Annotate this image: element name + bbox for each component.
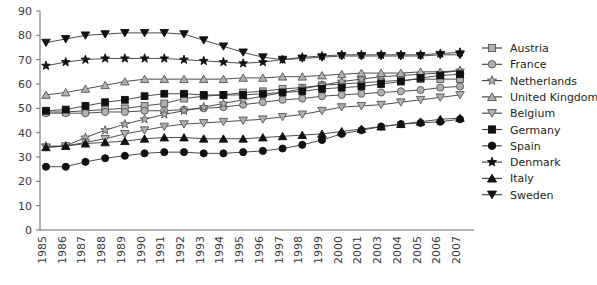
x-axis-tick-label: 1995 [233, 236, 246, 264]
data-point [240, 149, 247, 156]
data-point [199, 37, 208, 44]
x-axis-tick-label: 1999 [312, 236, 325, 264]
legend-marker [487, 157, 496, 166]
legend-item-sweden[interactable]: Sweden [482, 189, 553, 202]
data-point [279, 89, 286, 96]
data-point [160, 54, 169, 62]
data-point [456, 83, 463, 90]
y-axis-tick-label: 70 [18, 54, 32, 67]
data-point [437, 84, 444, 91]
data-point [219, 58, 228, 66]
data-point [397, 78, 404, 85]
data-point [457, 71, 464, 78]
legend-label: Austria [510, 42, 549, 55]
legend-item-austria[interactable]: Austria [482, 42, 549, 55]
data-point [417, 75, 424, 82]
data-point [141, 150, 148, 157]
data-point [240, 92, 247, 99]
data-point [437, 72, 444, 79]
x-axis-tick-label: 2005 [411, 236, 424, 264]
data-point [220, 92, 227, 99]
line-chart: 0102030405060708090198519861987198819891… [0, 0, 597, 285]
data-point [219, 43, 228, 50]
legend-marker [488, 142, 496, 150]
x-axis-tick-label: 1993 [194, 236, 207, 264]
data-point [141, 93, 148, 100]
data-point [180, 149, 187, 156]
data-point [239, 49, 248, 56]
data-point [141, 107, 148, 114]
legend-marker [488, 44, 495, 51]
data-point [61, 58, 70, 66]
data-point [279, 145, 286, 152]
data-point [220, 150, 227, 157]
x-axis-tick-label: 1991 [154, 236, 167, 264]
legend-item-netherlands[interactable]: Netherlands [482, 75, 577, 88]
data-point [161, 90, 168, 97]
data-point [82, 110, 89, 117]
legend-item-spain[interactable]: Spain [482, 140, 541, 153]
data-point [299, 95, 306, 102]
x-axis-tick-label: 1990 [135, 236, 148, 264]
x-axis-tick-label: 1996 [253, 236, 266, 264]
legend-label: Netherlands [510, 75, 577, 88]
y-axis-tick-label: 90 [18, 5, 32, 18]
data-point [82, 103, 89, 110]
data-point [81, 55, 90, 63]
y-axis-tick-label: 80 [18, 29, 32, 42]
legend-item-germany[interactable]: Germany [482, 124, 561, 137]
x-axis-tick-label: 1987 [75, 236, 88, 264]
data-point [180, 55, 189, 63]
data-point [62, 163, 69, 170]
legend: AustriaFranceNetherlandsUnited KingdomBe… [482, 42, 597, 202]
legend-item-united-kingdom[interactable]: United Kingdom [482, 91, 597, 104]
x-axis-tick-label: 2003 [371, 236, 384, 264]
data-point [259, 90, 266, 97]
y-axis-tick-label: 0 [25, 224, 32, 237]
data-point [358, 90, 365, 97]
x-axis-tick-label: 1997 [273, 236, 286, 264]
data-point [101, 54, 110, 62]
legend-label: Belgium [510, 107, 555, 120]
x-axis-tick-label: 1989 [115, 236, 128, 264]
data-point [121, 152, 128, 159]
data-point [102, 99, 109, 106]
data-point [161, 100, 168, 107]
x-axis-tick-label: 1986 [56, 236, 69, 264]
data-point [42, 163, 49, 170]
legend-label: Germany [510, 124, 561, 137]
legend-item-italy[interactable]: Italy [482, 172, 534, 185]
y-axis-tick-label: 60 [18, 78, 32, 91]
chart-container: 0102030405060708090198519861987198819891… [0, 0, 597, 285]
data-point [161, 149, 168, 156]
data-point [200, 150, 207, 157]
data-point [318, 93, 325, 100]
data-point [397, 88, 404, 95]
x-axis-tick-label: 1994 [213, 236, 226, 264]
y-axis-tick-label: 40 [18, 127, 32, 140]
x-axis-tick-label: 2004 [391, 236, 404, 264]
legend-item-belgium[interactable]: Belgium [482, 107, 555, 120]
data-point [43, 107, 50, 114]
data-point [140, 115, 149, 123]
y-axis-tick-label: 50 [18, 102, 32, 115]
legend-item-denmark[interactable]: Denmark [482, 156, 561, 169]
data-point [102, 155, 109, 162]
x-axis-tick-label: 1988 [95, 236, 108, 264]
legend-marker [488, 126, 495, 133]
data-point [199, 56, 208, 64]
legend-label: France [510, 58, 547, 71]
data-point [42, 61, 51, 69]
x-axis-tick-label: 2006 [430, 236, 443, 264]
data-point [42, 39, 51, 46]
legend-label: Italy [510, 172, 534, 185]
data-point [140, 54, 149, 62]
data-point [82, 158, 89, 165]
legend-label: Denmark [510, 156, 561, 169]
data-point [338, 91, 345, 98]
x-axis-tick-label: 2001 [351, 236, 364, 264]
y-axis-tick-label: 10 [18, 200, 32, 213]
data-point [121, 108, 128, 115]
data-point [378, 81, 385, 88]
legend-item-france[interactable]: France [482, 58, 547, 71]
